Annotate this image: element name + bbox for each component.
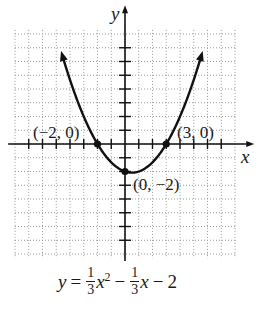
equation: y = 1 3 x2 − 1 3 x − 2 <box>58 266 177 297</box>
equation-constant: 2 <box>167 271 177 293</box>
parabola-curve <box>60 51 204 173</box>
point-label-left: (−2, 0) <box>33 124 79 141</box>
equation-lhs: y <box>58 271 66 293</box>
arrowhead-icon <box>60 51 68 62</box>
frac-numerator: 1 <box>130 266 139 282</box>
arrowhead-icon <box>196 51 204 62</box>
fraction-one-third-a: 1 3 <box>86 266 95 297</box>
y-axis-label: y <box>111 4 119 23</box>
point-label-right: (3, 0) <box>177 124 214 141</box>
frac-denominator: 3 <box>131 282 138 297</box>
equation-equals: = <box>70 271 81 293</box>
point-marker <box>121 168 128 175</box>
point-label-intercept: (0, −2) <box>133 176 179 193</box>
equation-var-x: x <box>140 271 148 293</box>
equation-minus: − <box>115 271 126 293</box>
point-marker <box>94 140 101 147</box>
equation-minus: − <box>153 271 164 293</box>
point-marker <box>163 140 170 147</box>
x-axis-label: x <box>241 147 249 166</box>
equation-var-x-squared: x <box>96 271 104 293</box>
fraction-one-third-b: 1 3 <box>130 266 139 297</box>
frac-denominator: 3 <box>87 282 94 297</box>
frac-numerator: 1 <box>86 266 95 282</box>
equation-exponent: 2 <box>105 270 111 285</box>
